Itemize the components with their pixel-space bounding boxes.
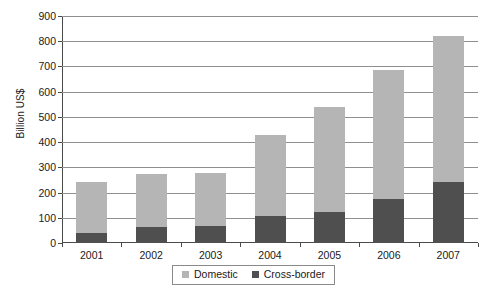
bar-stack (373, 16, 404, 243)
x-tick-mark (181, 243, 182, 247)
y-tick-label: 300 (38, 162, 56, 173)
x-tick-label: 2002 (139, 249, 162, 261)
bar-segment-cross-border (373, 199, 404, 243)
bar-stack (433, 16, 464, 243)
y-tick-label: 200 (38, 187, 56, 198)
y-tick-label: 600 (38, 86, 56, 97)
x-tick-mark (121, 243, 122, 247)
x-tick-label: 2006 (377, 249, 400, 261)
bar-segment-domestic (195, 173, 226, 226)
x-tick-label: 2004 (258, 249, 281, 261)
x-tick-mark (240, 243, 241, 247)
y-tick-mark (58, 167, 62, 168)
bar-segment-cross-border (314, 212, 345, 243)
bar-segment-domestic (255, 135, 286, 216)
x-tick-mark (62, 243, 63, 247)
y-tick-label: 800 (38, 36, 56, 47)
y-tick-mark (58, 142, 62, 143)
y-tick-label: 900 (38, 11, 56, 22)
y-tick-label: 400 (38, 137, 56, 148)
legend-item: Domestic (182, 269, 238, 280)
x-tick-mark (359, 243, 360, 247)
y-tick-mark (58, 92, 62, 93)
bar-segment-domestic (433, 36, 464, 182)
stacked-bar-chart: Billion US$ 0100200300400500600700800900… (0, 0, 492, 301)
legend-label: Cross-border (264, 269, 325, 280)
y-tick-mark (58, 193, 62, 194)
x-tick-label: 2003 (199, 249, 222, 261)
bar-segment-domestic (76, 182, 107, 232)
x-tick-label: 2005 (318, 249, 341, 261)
bar-segment-cross-border (76, 233, 107, 243)
bar-segment-cross-border (136, 227, 167, 243)
x-tick-mark (419, 243, 420, 247)
legend-item: Cross-border (252, 269, 325, 280)
y-tick-mark (58, 117, 62, 118)
plot-area: 0100200300400500600700800900 20012002200… (62, 16, 478, 243)
y-tick-mark (58, 218, 62, 219)
bar-segment-domestic (136, 174, 167, 227)
y-tick-label: 500 (38, 112, 56, 123)
x-tick-label: 2007 (437, 249, 460, 261)
bar-segment-cross-border (433, 182, 464, 243)
bar-stack (255, 16, 286, 243)
y-tick-label: 0 (50, 238, 56, 249)
bar-segment-cross-border (195, 226, 226, 243)
bar-stack (195, 16, 226, 243)
y-tick-label: 700 (38, 61, 56, 72)
y-tick-label: 100 (38, 213, 56, 224)
legend-label: Domestic (194, 269, 238, 280)
x-tick-label: 2001 (80, 249, 103, 261)
legend-swatch-icon (252, 271, 259, 278)
bar-segment-domestic (314, 107, 345, 212)
y-axis-title: Billion US$ (15, 59, 26, 169)
x-tick-mark (300, 243, 301, 247)
y-tick-mark (58, 16, 62, 17)
bar-segment-cross-border (255, 216, 286, 243)
bar-stack (76, 16, 107, 243)
y-tick-mark (58, 41, 62, 42)
bar-stack (314, 16, 345, 243)
y-tick-mark (58, 66, 62, 67)
bar-stack (136, 16, 167, 243)
chart-legend: DomesticCross-border (172, 265, 335, 285)
bar-segment-domestic (373, 70, 404, 199)
x-tick-mark (478, 243, 479, 247)
legend-swatch-icon (182, 271, 189, 278)
